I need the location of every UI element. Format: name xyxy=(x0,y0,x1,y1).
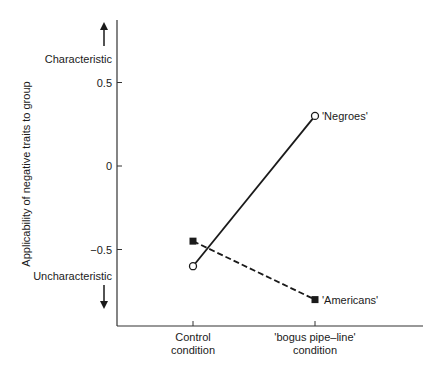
up-arrow-icon xyxy=(100,22,108,46)
y-tick-label: 0.5 xyxy=(97,77,112,89)
down-arrow-icon xyxy=(100,285,108,309)
circle-marker-icon xyxy=(312,112,319,119)
series-line xyxy=(193,116,315,266)
y-axis-label: Applicability of negative traits to grou… xyxy=(20,81,32,266)
series-line xyxy=(193,241,315,299)
x-tick-label: 'bogus pipe–line' xyxy=(274,331,355,343)
series-layer: 'Negroes''Americans' xyxy=(190,110,379,306)
series-americans: 'Americans' xyxy=(190,238,379,306)
y-tick-label: −0.5 xyxy=(90,244,112,256)
series-label: 'Negroes' xyxy=(322,110,368,122)
series-label: 'Americans' xyxy=(322,294,378,306)
square-marker-icon xyxy=(312,296,319,303)
y-tick-label: 0 xyxy=(106,160,112,172)
x-tick-label: condition xyxy=(171,344,215,356)
series-negroes: 'Negroes' xyxy=(190,110,368,270)
line-chart: 0.50−0.5 Controlcondition'bogus pipe–lin… xyxy=(0,0,444,373)
uncharacteristic-label: Uncharacteristic xyxy=(33,270,112,282)
x-tick-label: Control xyxy=(175,331,210,343)
circle-marker-icon xyxy=(190,263,197,270)
characteristic-label: Characteristic xyxy=(45,53,113,65)
x-tick-label: condition xyxy=(293,344,337,356)
square-marker-icon xyxy=(190,238,197,245)
